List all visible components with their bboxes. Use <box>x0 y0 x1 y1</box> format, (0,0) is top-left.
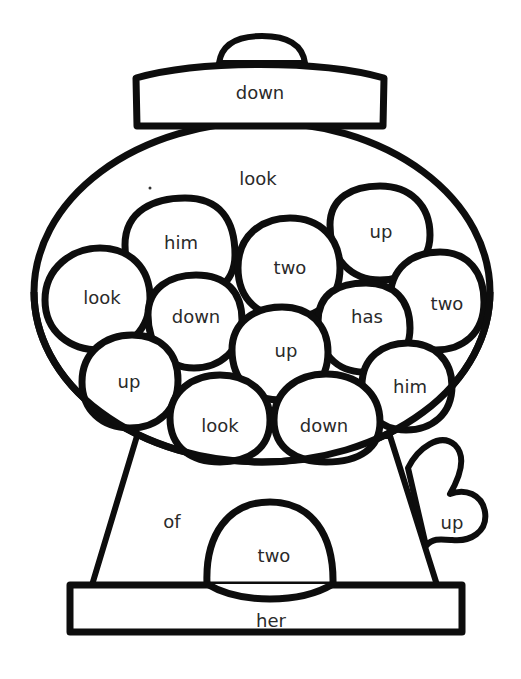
gumball-machine-worksheet: down look him up two look down has two u… <box>0 0 521 679</box>
word-gumball: two <box>274 257 307 278</box>
word-gumball: down <box>300 415 349 436</box>
word-gumball: look <box>201 415 239 436</box>
word-base: of <box>163 511 181 532</box>
word-gumball: him <box>164 232 198 253</box>
word-gumball: look <box>83 287 121 308</box>
word-stand: her <box>256 610 286 631</box>
word-globe: look <box>239 168 277 189</box>
word-chute: two <box>258 545 291 566</box>
word-lid: down <box>236 82 285 103</box>
word-gumball: down <box>172 306 221 327</box>
lid-knob[interactable] <box>219 36 305 63</box>
stray-mark <box>149 187 152 190</box>
word-gumball: up <box>370 221 393 242</box>
word-handle: up <box>441 512 464 533</box>
word-gumball: up <box>275 340 298 361</box>
word-gumball: up <box>118 371 141 392</box>
word-gumball: has <box>351 306 383 327</box>
word-gumball: two <box>431 293 464 314</box>
word-gumball: him <box>393 376 427 397</box>
